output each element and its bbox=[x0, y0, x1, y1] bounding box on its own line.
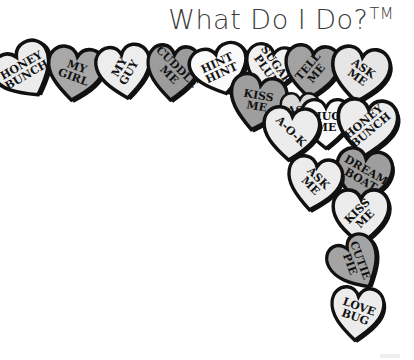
footer-mark bbox=[380, 354, 400, 358]
heart-icon bbox=[328, 284, 387, 344]
page-title: What Do I Do?TM bbox=[168, 4, 394, 35]
candy-heart: LOVEBUG bbox=[328, 284, 387, 344]
trademark-symbol: TM bbox=[369, 4, 394, 23]
title-text: What Do I Do? bbox=[168, 4, 368, 35]
